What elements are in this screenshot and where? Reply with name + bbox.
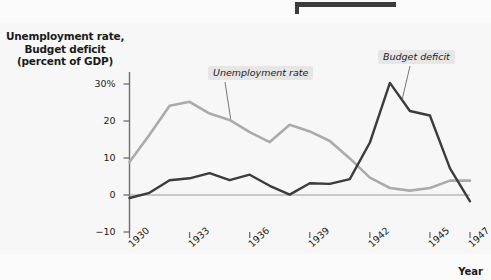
series-line-budget-deficit [130,83,471,201]
series-line-unemployment-rate [130,102,471,191]
chart-plot-area [0,0,491,280]
leader-line-unemployment-rate [225,82,231,119]
leader-line-budget-deficit [402,66,410,101]
figure-container: Unemployment rate, Budget deficit (perce… [0,0,491,280]
